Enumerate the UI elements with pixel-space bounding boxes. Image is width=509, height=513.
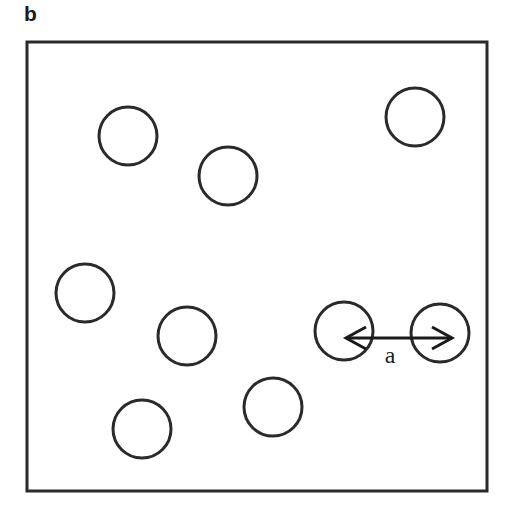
particle-circle	[56, 264, 114, 322]
distance-label: a	[385, 342, 396, 368]
particle-circle	[315, 302, 373, 360]
particle-circle	[158, 307, 216, 365]
particles-group	[56, 88, 469, 458]
particle-circle	[113, 400, 171, 458]
particle-diagram: a	[0, 0, 509, 513]
particle-circle	[199, 147, 257, 205]
particle-circle	[386, 88, 444, 146]
particle-circle	[99, 107, 157, 165]
particle-circle	[244, 378, 302, 436]
